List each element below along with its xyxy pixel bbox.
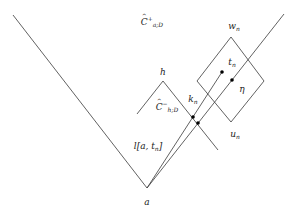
label-eta: η bbox=[239, 85, 244, 94]
point-kn-1 bbox=[191, 115, 195, 119]
point-tn bbox=[220, 70, 224, 74]
point-kn-2 bbox=[196, 121, 200, 125]
diagram-canvas bbox=[0, 0, 289, 217]
point-eta bbox=[230, 78, 234, 82]
label-cone-top: C+a;D bbox=[141, 18, 163, 27]
label-small-cone: C−h;D bbox=[156, 103, 179, 112]
label-h: h bbox=[160, 68, 166, 77]
label-wn: wn bbox=[228, 22, 240, 31]
cone-left-edge bbox=[13, 15, 147, 188]
segment-a-tn bbox=[147, 72, 222, 188]
label-kn: kn bbox=[188, 95, 197, 104]
label-un: un bbox=[230, 130, 240, 139]
label-tn: tn bbox=[228, 58, 236, 67]
label-apex: a bbox=[144, 198, 149, 207]
label-segment: l[a, tn] bbox=[134, 142, 162, 151]
